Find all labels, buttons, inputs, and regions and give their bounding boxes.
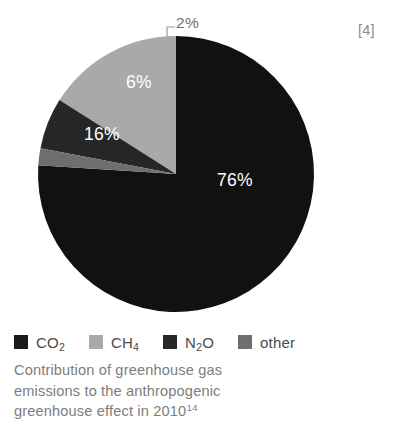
legend-label-other: other [260,335,295,350]
legend-label-ch4: CH4 [111,335,139,350]
legend-label-n2o-tail: O [202,334,214,351]
slice-data-label-co2: 76% [217,170,253,190]
caption-line-3: greenhouse effect in 2010 [14,403,186,419]
caption-line-1: Contribution of greenhouse gas [14,362,222,378]
legend-label-co2: CO2 [36,335,65,350]
legend-item-other[interactable]: other [238,335,295,350]
legend-item-co2[interactable]: CO2 [14,335,65,350]
legend-swatch-other-icon [238,335,252,349]
legend-item-n2o[interactable]: N2O [163,335,214,350]
pie-chart-svg: 76% 16% 6% [36,34,316,316]
legend-swatch-n2o-icon [163,335,177,349]
source-reference-marker: [4] [358,22,375,38]
legend-swatch-ch4-icon [89,335,103,349]
chart-legend: CO2 CH4 N2O other [14,332,295,352]
slice-data-label-ch4: 16% [84,124,120,144]
slice-data-label-n2o: 6% [126,72,152,92]
legend-label-n2o: N2O [185,335,214,350]
legend-swatch-co2-icon [14,335,28,349]
figure-caption: Contribution of greenhouse gasemissions … [14,360,344,424]
legend-label-ch4-sub: 4 [133,341,139,353]
legend-label-n2o-main: N [185,334,196,351]
caption-line-2: emissions to the anthropogenic [14,383,221,399]
pie-chart: 76% 16% 6% [36,34,316,316]
legend-label-ch4-main: CH [111,334,133,351]
caption-footnote-marker: 14 [187,402,198,413]
legend-item-ch4[interactable]: CH4 [89,335,139,350]
legend-label-co2-sub: 2 [59,341,65,353]
slice-callout-label-other: 2% [176,14,199,32]
legend-label-co2-main: CO [36,334,59,351]
greenhouse-gas-pie-figure: [4] 2% 76% 16% 6% CO2 [0,0,395,434]
legend-label-n2o-sub: 2 [196,341,202,353]
